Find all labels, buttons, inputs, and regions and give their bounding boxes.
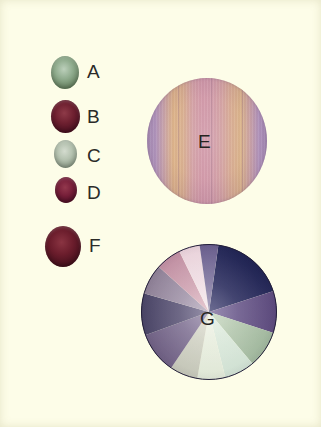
specimen-b-body: [51, 100, 80, 133]
specimen-c: [54, 140, 77, 168]
specimen-d: [55, 177, 77, 203]
circle-e-specimen: E: [147, 78, 267, 204]
pie-g-label: G: [200, 309, 215, 328]
specimen-a: [51, 56, 79, 89]
specimen-c-body: [54, 140, 77, 168]
specimen-d-label: D: [87, 183, 101, 202]
specimen-f: [45, 226, 81, 267]
specimen-a-body: [51, 56, 79, 89]
specimen-b-label: B: [87, 107, 100, 126]
specimen-b: [51, 100, 80, 133]
specimen-c-label: C: [87, 146, 101, 165]
specimen-a-label: A: [87, 62, 100, 81]
specimen-f-body: [45, 226, 81, 267]
specimen-d-body: [55, 177, 77, 203]
circle-e-label: E: [198, 132, 211, 151]
pie-g-specimen: G: [141, 244, 277, 380]
specimen-f-label: F: [89, 236, 101, 255]
figure-plate: ABCDF E G: [0, 0, 321, 427]
